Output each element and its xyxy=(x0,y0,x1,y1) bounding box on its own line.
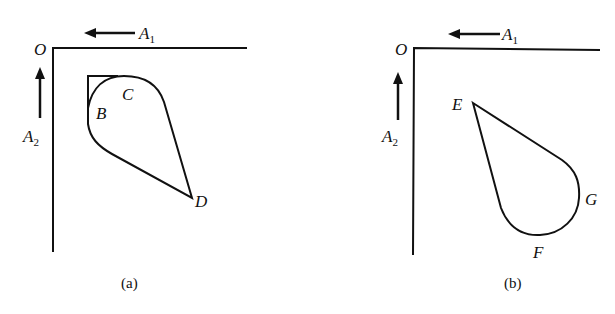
panel-a: O A1 A2 B C D (a) xyxy=(22,24,247,292)
point-label-e: E xyxy=(451,95,463,114)
arrow-b2-icon xyxy=(393,72,403,120)
arrow-b1-icon xyxy=(448,29,500,39)
caption-a: (a) xyxy=(121,275,138,292)
axis1-label-b: A1 xyxy=(501,25,518,46)
point-label-c: C xyxy=(122,85,134,104)
point-label-d: D xyxy=(194,192,208,211)
yield-curve-a xyxy=(88,76,192,198)
point-label-f: F xyxy=(532,243,544,262)
arrow-a1-icon xyxy=(84,28,135,38)
origin-label-b: O xyxy=(395,40,407,59)
axis2-label-a: A2 xyxy=(22,127,39,148)
figure: O A1 A2 B C D (a) O A1 A2 E xyxy=(0,0,615,314)
point-label-g: G xyxy=(585,190,597,209)
axes-a xyxy=(53,48,247,252)
panel-b: O A1 A2 E G F (b) xyxy=(381,25,600,292)
axis1-label-a: A1 xyxy=(138,24,155,45)
yield-curve-b xyxy=(473,103,579,235)
caption-b: (b) xyxy=(504,275,522,292)
axes-b xyxy=(413,48,600,255)
origin-label-a: O xyxy=(34,40,46,59)
arrow-a2-icon xyxy=(35,67,45,118)
point-label-b: B xyxy=(96,104,107,123)
axis2-label-b: A2 xyxy=(381,127,398,148)
